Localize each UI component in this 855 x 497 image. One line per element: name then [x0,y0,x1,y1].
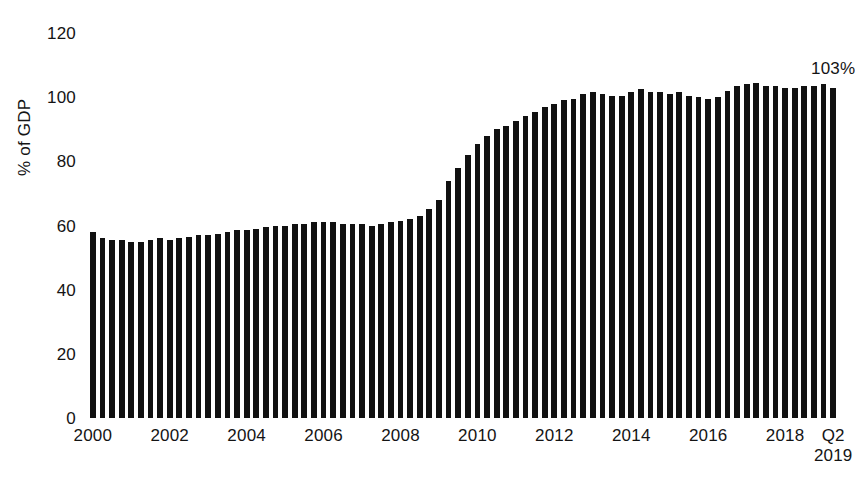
bar [811,86,817,418]
bar [667,94,673,418]
bar [225,232,231,418]
bar [90,232,96,418]
bar [311,222,317,418]
bar [782,88,788,418]
bar [705,99,711,418]
bar [263,227,269,418]
bar [484,136,490,418]
bar [648,92,654,418]
bar [686,96,692,418]
bar [109,240,115,418]
bar [696,97,702,418]
clipped-title-remnant [0,0,850,1]
bar [523,116,529,418]
bar [301,224,307,418]
bar [196,235,202,418]
x-axis-tick-label: 2002 [150,426,189,446]
bar [551,104,557,418]
bar [657,92,663,418]
y-axis-tick-label: 80 [57,153,76,170]
x-axis-tick-label: 2000 [73,426,112,446]
y-axis-tick-label: 60 [57,217,76,234]
bar [426,209,432,418]
bar [350,224,356,418]
bar [475,144,481,418]
bar [138,242,144,418]
bar [792,88,798,418]
x-axis-tick-label: 2008 [381,426,420,446]
bar [773,86,779,418]
value-annotation: 103% [811,60,855,77]
bar [292,224,298,418]
bar [398,221,404,418]
bar [715,97,721,418]
bar [734,86,740,418]
bar [407,219,413,418]
bar [753,83,759,418]
bar [330,222,336,418]
bar [638,89,644,418]
bar [234,230,240,418]
bar [503,126,509,418]
x-axis-tick-label: Q22019 [814,426,853,466]
y-axis-title: % of GDP [16,99,33,176]
bar [446,181,452,418]
bar [619,96,625,418]
y-axis-tick-label: 0 [66,410,76,427]
x-axis-tick-label: 2006 [304,426,343,446]
bar [253,229,259,418]
bar [148,240,154,418]
bar-series [88,33,838,418]
y-axis-tick-label: 120 [47,25,76,42]
bar [580,94,586,418]
y-axis-tick-label: 20 [57,345,76,362]
bar [215,234,221,418]
bar [388,222,394,418]
x-axis-tick-label: 2018 [766,426,805,446]
bar [763,86,769,418]
x-axis-tick-label: 2010 [458,426,497,446]
bar [119,240,125,418]
bar [157,238,163,418]
x-axis-tick-label-line2: 2019 [814,446,853,466]
bar [801,86,807,418]
bar [100,238,106,418]
bar [513,121,519,418]
bar [455,168,461,418]
y-axis-tick-label: 100 [47,89,76,106]
bar [590,92,596,418]
bar [676,92,682,418]
bar [205,235,211,418]
bar [436,200,442,418]
bar [744,84,750,418]
x-axis-tick-label: 2004 [227,426,266,446]
bar [571,99,577,418]
bar [273,226,279,419]
x-axis-tick-label: 2012 [535,426,574,446]
bar [321,222,327,418]
x-axis-tick-label: 2014 [612,426,651,446]
bar [128,242,134,418]
bar [359,224,365,418]
x-axis-tick-label: 2016 [689,426,728,446]
bar [628,92,634,418]
bar [561,100,567,418]
bar [378,224,384,418]
bar [494,129,500,418]
bar [609,96,615,418]
bar [282,226,288,419]
bar [600,94,606,418]
bar [244,230,250,418]
bar [542,107,548,418]
bar [417,216,423,418]
bar [186,237,192,418]
bar [369,226,375,419]
bar [532,112,538,418]
plot-area: 020406080100120 200020022004200620082010… [88,33,838,418]
bar [465,155,471,418]
bar [176,238,182,418]
bar [830,88,836,418]
y-axis-tick-label: 40 [57,281,76,298]
bar [821,84,827,418]
